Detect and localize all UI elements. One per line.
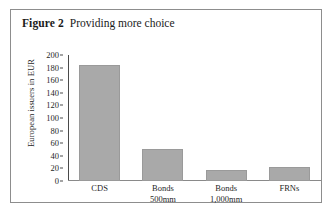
y-tick-label: 0 xyxy=(33,177,59,186)
y-tick-mark xyxy=(60,118,63,119)
x-axis-category-labels: CDSBonds500mmBonds1,000mmFRNs xyxy=(68,183,321,213)
y-tick-label: 140 xyxy=(33,89,59,98)
x-tick-label-line2: 500mm xyxy=(131,194,194,205)
figure-caption: Providing more choice xyxy=(70,17,175,29)
x-tick-label-line2: 1,000mm xyxy=(195,194,258,205)
bar xyxy=(269,167,310,181)
figure-container: Figure 2Providing more choice European i… xyxy=(10,9,322,203)
x-tick-label: Bonds500mm xyxy=(131,183,194,205)
x-tick-label: Bonds1,000mm xyxy=(195,183,258,205)
y-tick-label: 200 xyxy=(33,51,59,60)
y-tick-mark xyxy=(60,155,63,156)
x-tick-label-line1: FRNs xyxy=(279,183,299,193)
y-tick-mark xyxy=(60,67,63,68)
y-tick-label: 120 xyxy=(33,101,59,110)
bar xyxy=(142,149,183,181)
x-tick-label: FRNs xyxy=(258,183,321,194)
bar xyxy=(206,170,247,181)
bar xyxy=(79,65,120,181)
y-tick-mark xyxy=(60,105,63,106)
y-axis-tick-labels: 200180160140120100806040200 xyxy=(37,36,63,181)
y-tick-mark xyxy=(60,143,63,144)
y-tick-mark xyxy=(60,130,63,131)
x-tick-label-line1: Bonds xyxy=(152,183,174,193)
bars-layer xyxy=(68,55,321,181)
x-tick-label-line1: CDS xyxy=(91,183,108,193)
x-tick-label: CDS xyxy=(68,183,131,194)
y-tick-mark xyxy=(60,168,63,169)
y-tick-mark xyxy=(60,181,63,182)
y-tick-label: 180 xyxy=(33,63,59,72)
y-tick-mark xyxy=(60,80,63,81)
y-tick-mark xyxy=(60,92,63,93)
chart-plot-area: European issuers in EUR 2001801601401201… xyxy=(11,36,321,202)
y-tick-label: 40 xyxy=(33,152,59,161)
y-tick-label: 100 xyxy=(33,114,59,123)
figure-title: Figure 2Providing more choice xyxy=(22,16,175,30)
y-tick-label: 160 xyxy=(33,76,59,85)
y-tick-label: 20 xyxy=(33,164,59,173)
y-tick-label: 80 xyxy=(33,126,59,135)
y-tick-mark xyxy=(60,55,63,56)
y-tick-label: 60 xyxy=(33,139,59,148)
figure-number: Figure 2 xyxy=(22,17,64,29)
x-tick-label-line1: Bonds xyxy=(215,183,237,193)
